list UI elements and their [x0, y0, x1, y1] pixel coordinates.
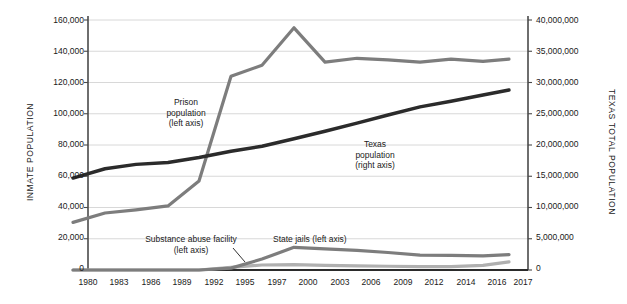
chart-plot-area	[0, 0, 627, 304]
x-axis-tick-2017: 2017	[503, 277, 543, 288]
y-axis-left-tick-0: 0	[30, 263, 84, 274]
y-axis-left-tick-3: 60,000	[30, 170, 84, 181]
annotation-texas-line-3: (right axis)	[336, 160, 414, 171]
y-axis-right-tick-8: 40,000,000	[536, 15, 606, 26]
y-axis-left-tick-2: 40,000	[30, 201, 84, 212]
annotation-prison-line-3: (left axis)	[152, 118, 220, 129]
y-axis-right-tick-0: 0	[536, 263, 606, 274]
y-axis-left-tick-7: 140,000	[30, 46, 84, 57]
annotation-substance-abuse-facility: Substance abuse facility (left axis)	[131, 234, 251, 255]
y-axis-right-tick-2: 10,000,000	[536, 201, 606, 212]
annotation-substance-line-1: Substance abuse facility	[131, 234, 251, 245]
y-axis-left-tick-4: 80,000	[30, 139, 84, 150]
y-axis-right-tick-6: 30,000,000	[536, 77, 606, 88]
annotation-texas-population: Texas population (right axis)	[336, 139, 414, 171]
y-axis-right-tick-5: 25,000,000	[536, 108, 606, 119]
annotation-texas-line-2: population	[336, 150, 414, 161]
annotation-substance-line-2: (left axis)	[131, 245, 251, 256]
annotation-statejails-line-1: State jails (left axis)	[273, 234, 347, 245]
annotation-prison-population: Prison population (left axis)	[152, 97, 220, 129]
y-axis-right-tick-4: 20,000,000	[536, 139, 606, 150]
annotation-state-jails: State jails (left axis)	[273, 234, 347, 245]
chart-container: INMATE POPULATION TEXAS TOTAL POPULATION…	[0, 0, 627, 304]
y-axis-left-tick-1: 20,000	[30, 232, 84, 243]
annotation-texas-line-1: Texas	[336, 139, 414, 150]
y-axis-left-tick-6: 120,000	[30, 77, 84, 88]
annotation-prison-line-2: population	[152, 108, 220, 119]
y-axis-right-tick-1: 5,000,000	[536, 232, 606, 243]
y-axis-right-tick-7: 35,000,000	[536, 46, 606, 57]
annotation-prison-line-1: Prison	[152, 97, 220, 108]
y-axis-left-tick-8: 160,000	[30, 15, 84, 26]
y-axis-left-tick-5: 100,000	[30, 108, 84, 119]
y-axis-right-tick-3: 15,000,000	[536, 170, 606, 181]
